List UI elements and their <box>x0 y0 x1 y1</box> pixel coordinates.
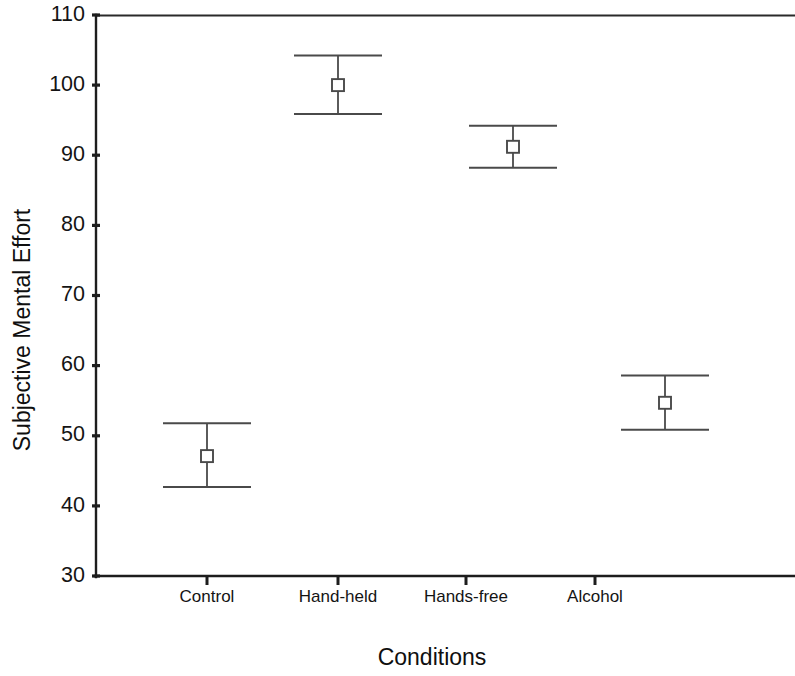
y-tick-label: 100 <box>49 72 85 96</box>
y-tick-label: 70 <box>61 282 85 306</box>
y-tick-label: 90 <box>61 142 85 166</box>
mean-marker <box>332 79 344 91</box>
x-tick-label-alcohol: Alcohol <box>567 587 623 606</box>
y-tick-label: 60 <box>61 352 85 376</box>
x-axis-title: Conditions <box>378 644 487 670</box>
data-point-alcohol <box>621 376 709 430</box>
error-bar-chart: 110 100 90 80 70 60 50 40 30 Control Han… <box>0 0 795 676</box>
y-axis-title: Subjective Mental Effort <box>9 208 35 451</box>
x-tick-label-hand-held: Hand-held <box>299 587 377 606</box>
y-tick-label: 40 <box>61 493 85 517</box>
mean-marker <box>659 397 671 409</box>
x-tick-label-control: Control <box>180 587 235 606</box>
x-axis-tick-labels: Control Hand-held Hands-free Alcohol <box>180 587 623 606</box>
data-point-hands-free <box>469 126 557 168</box>
x-axis-ticks <box>207 576 595 585</box>
y-axis-tick-labels: 110 100 90 80 70 60 50 40 30 <box>49 2 85 587</box>
mean-marker <box>201 450 213 462</box>
mean-marker <box>507 141 519 153</box>
x-tick-label-hands-free: Hands-free <box>424 587 508 606</box>
data-point-hand-held <box>294 56 382 114</box>
y-tick-label: 50 <box>61 422 85 446</box>
data-point-control <box>163 423 251 487</box>
chart-container: 110 100 90 80 70 60 50 40 30 Control Han… <box>0 0 795 676</box>
y-tick-label: 110 <box>51 2 85 26</box>
y-tick-label: 80 <box>61 212 85 236</box>
y-tick-label: 30 <box>61 563 85 587</box>
